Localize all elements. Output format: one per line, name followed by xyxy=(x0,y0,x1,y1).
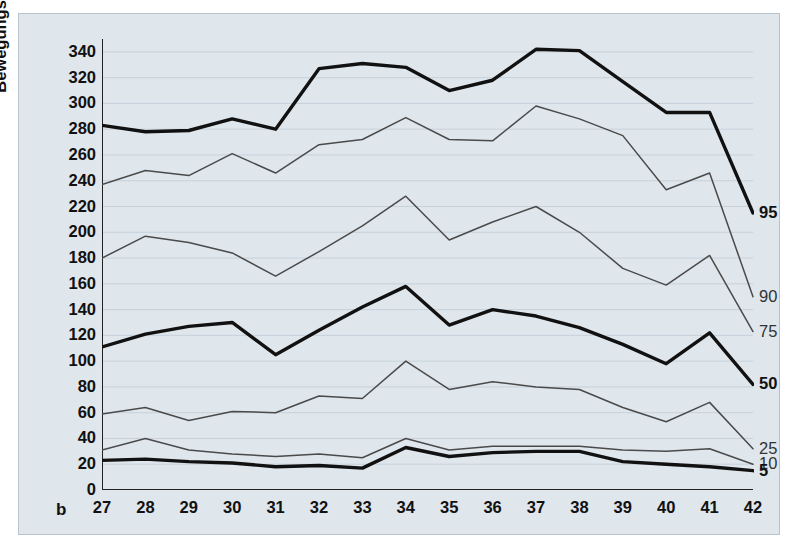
x-axis-tick-label: 30 xyxy=(212,498,252,517)
x-axis-tick-label: 36 xyxy=(473,498,513,517)
y-axis-tick-label: 40 xyxy=(50,429,96,445)
y-axis-tick-label: 20 xyxy=(50,455,96,471)
plot-area xyxy=(102,32,754,490)
y-axis-tick-label: 260 xyxy=(50,146,96,162)
series-label-90: 90 xyxy=(759,287,777,306)
x-axis-tick-label: 40 xyxy=(646,498,686,517)
y-axis-tick-label: 340 xyxy=(50,43,96,59)
y-axis-title: Bewegungsdauer pro 10 min xyxy=(0,0,10,120)
series-line-90 xyxy=(102,106,753,297)
panel-letter: b xyxy=(56,500,66,520)
y-axis-tick-label: 300 xyxy=(50,94,96,110)
series-line-75 xyxy=(102,196,753,331)
y-axis-tick-label: 80 xyxy=(50,378,96,394)
y-axis-tick-label: 180 xyxy=(50,249,96,265)
series-label-50: 50 xyxy=(759,374,777,393)
chart-figure: Bewegungsdauer pro 10 min 02040608010012… xyxy=(0,0,798,548)
x-axis-tick-label: 33 xyxy=(342,498,382,517)
x-axis-tick-label: 34 xyxy=(386,498,426,517)
x-axis-tick-label: 35 xyxy=(429,498,469,517)
series-label-5: 5 xyxy=(759,461,768,480)
y-axis-tick-label: 60 xyxy=(50,404,96,420)
x-axis-tick-labels: 27282930313233343536373839404142 xyxy=(0,498,798,528)
y-axis-tick-label: 220 xyxy=(50,198,96,214)
y-axis-tick-label: 0 xyxy=(50,481,96,497)
x-axis-tick-label: 32 xyxy=(299,498,339,517)
series-line-25 xyxy=(102,361,753,449)
y-axis-tick-label: 140 xyxy=(50,301,96,317)
y-axis-tick-label: 200 xyxy=(50,223,96,239)
y-axis-tick-label: 120 xyxy=(50,326,96,342)
x-axis-tick-label: 28 xyxy=(125,498,165,517)
plot-svg xyxy=(102,32,754,490)
x-axis-tick-label: 31 xyxy=(256,498,296,517)
y-axis-tick-label: 280 xyxy=(50,120,96,136)
y-axis-tick-label: 160 xyxy=(50,275,96,291)
x-axis-tick-label: 38 xyxy=(559,498,599,517)
x-axis-tick-label: 41 xyxy=(690,498,730,517)
series-label-75: 75 xyxy=(759,322,777,341)
x-axis-tick-label: 37 xyxy=(516,498,556,517)
y-axis-tick-label: 320 xyxy=(50,69,96,85)
series-label-95: 95 xyxy=(759,203,777,222)
y-axis-tick-label: 100 xyxy=(50,352,96,368)
y-axis-tick-labels: 0204060801001201401601802002202402602803… xyxy=(40,0,96,548)
x-axis-tick-label: 39 xyxy=(603,498,643,517)
y-axis-tick-label: 240 xyxy=(50,172,96,188)
x-axis-tick-label: 27 xyxy=(82,498,122,517)
series-line-95 xyxy=(102,49,753,213)
x-axis-tick-label: 29 xyxy=(169,498,209,517)
x-axis-tick-label: 42 xyxy=(733,498,773,517)
